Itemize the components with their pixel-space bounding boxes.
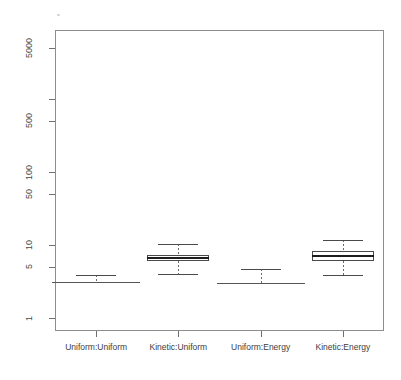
- boxplot-upper-whisker-cap: [323, 240, 363, 241]
- boxplot-figure: 1510501005005000 Uniform:UniformKinetic:…: [0, 0, 401, 380]
- boxplot-median-line: [147, 257, 209, 259]
- boxplot-lower-whisker: [178, 261, 179, 274]
- scan-artifact-speck: [57, 14, 60, 16]
- y-axis-tick-label: 10: [25, 240, 34, 250]
- y-axis: 1510501005005000: [0, 0, 55, 380]
- plot-area-frame: [55, 30, 384, 331]
- boxplot-upper-whisker: [343, 240, 344, 252]
- y-axis-minor-tick: [49, 99, 55, 100]
- boxplot-upper-whisker-cap: [241, 269, 281, 270]
- boxplot-lower-whisker-cap: [158, 274, 198, 275]
- boxplot-upper-whisker: [96, 275, 97, 282]
- boxplot-lower-whisker-cap: [323, 275, 363, 276]
- y-axis-tick: [49, 194, 55, 195]
- x-axis-tick-label: Uniform:Energy: [231, 342, 290, 352]
- boxplot-median-line: [217, 283, 305, 284]
- y-axis-tick-label: 100: [25, 165, 34, 180]
- y-axis-tick-label: 1: [25, 316, 34, 321]
- x-axis-tick: [96, 331, 97, 337]
- boxplot-upper-whisker: [178, 244, 179, 255]
- y-axis-tick: [49, 267, 55, 268]
- boxplot-upper-whisker: [261, 269, 262, 283]
- y-axis-tick-label: 5000: [25, 38, 34, 58]
- y-axis-tick: [49, 121, 55, 122]
- y-axis-tick: [49, 245, 55, 246]
- x-axis-tick: [261, 331, 262, 337]
- x-axis-tick-label: Uniform:Uniform: [65, 342, 127, 352]
- boxplot-lower-whisker: [343, 261, 344, 275]
- x-axis-tick-label: Kinetic:Energy: [315, 342, 370, 352]
- x-axis-tick: [178, 331, 179, 337]
- boxplot-median-line: [52, 282, 140, 283]
- x-axis-tick: [343, 331, 344, 337]
- y-axis-tick-label: 50: [25, 189, 34, 199]
- y-axis-tick: [49, 48, 55, 49]
- y-axis-tick-label: 5: [25, 264, 34, 269]
- y-axis-tick: [49, 172, 55, 173]
- x-axis-tick-label: Kinetic:Uniform: [150, 342, 208, 352]
- y-axis-tick: [49, 318, 55, 319]
- boxplot-upper-whisker-cap: [76, 275, 116, 276]
- y-axis-tick-label: 500: [25, 113, 34, 128]
- boxplot-upper-whisker-cap: [158, 244, 198, 245]
- boxplot-median-line: [312, 255, 374, 257]
